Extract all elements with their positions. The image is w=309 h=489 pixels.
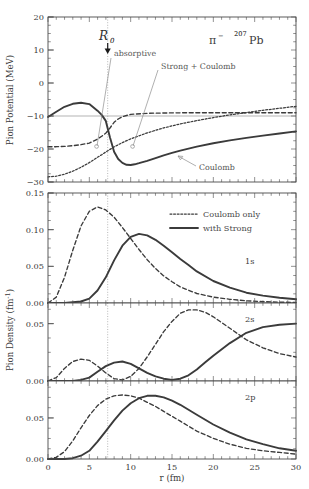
xtick-label: 5 xyxy=(87,462,92,472)
pion-symbol: π xyxy=(209,34,216,47)
xtick-label: 30 xyxy=(291,462,301,472)
target-element: Pb xyxy=(249,34,263,47)
density2p-plot-bg xyxy=(48,381,296,459)
r0-label: R xyxy=(98,29,108,43)
ytick-label: 0.05 xyxy=(26,261,44,271)
potential-yaxis-title: Pion Potential (MeV) xyxy=(5,55,15,145)
legend-label-with-strong: with Strong xyxy=(203,223,252,233)
ytick-label: 0.00 xyxy=(26,376,44,386)
xtick-label: 10 xyxy=(125,462,135,472)
xtick-label: 0 xyxy=(45,462,50,472)
panel-density-2s: 2s 0.000.05 xyxy=(26,303,296,386)
ytick-label: 0 xyxy=(39,78,44,88)
ytick-label: 0.05 xyxy=(26,413,44,423)
ytick-label: 0.15 xyxy=(26,188,44,198)
xtick-label: 25 xyxy=(249,462,259,472)
xtick-label: 20 xyxy=(208,462,218,472)
density-yaxis-title: Pion Density (fm-1) xyxy=(4,289,15,371)
ytick-label: −20 xyxy=(27,144,44,154)
figure-svg: absorptive Strong + Coulomb Coulomb R 0 … xyxy=(0,0,309,489)
state-label-1s: 1s xyxy=(245,256,254,266)
density-yaxis-title-text: Pion Density (fm xyxy=(5,299,15,371)
ytick-label: 20 xyxy=(34,12,44,22)
xaxis-tick-labels: 051015202530 xyxy=(45,462,301,472)
figure-root: absorptive Strong + Coulomb Coulomb R 0 … xyxy=(0,0,309,489)
annotation-coulomb-label: Coulomb xyxy=(199,163,235,172)
state-label-2s: 2s xyxy=(245,314,254,324)
pion-charge-superscript: − xyxy=(218,32,224,40)
ytick-label: 0.05 xyxy=(26,319,44,329)
ytick-label: 0.10 xyxy=(26,225,44,235)
ytick-label: −30 xyxy=(27,177,44,187)
legend-label-coulomb-only: Coulomb only xyxy=(203,209,260,219)
density1s-ytick-labels: 0.000.050.100.15 xyxy=(26,188,44,308)
potential-ytick-labels: −30−20−1001020 xyxy=(27,12,44,187)
panel-density-1s: Coulomb only with Strong 1s 0.000.050.10… xyxy=(26,188,296,308)
panel-potential: absorptive Strong + Coulomb Coulomb R 0 … xyxy=(5,12,296,187)
ytick-label: 0.00 xyxy=(26,454,44,464)
annotation-absorptive-label: absorptive xyxy=(114,49,157,58)
panel-density-2p: 2p 0.000.05 051015202530 r (fm) xyxy=(26,381,301,483)
xaxis-title: r (fm) xyxy=(160,473,185,483)
r0-subscript: 0 xyxy=(110,37,115,45)
state-label-2p: 2p xyxy=(245,392,255,402)
density2s-plot-bg xyxy=(48,303,296,381)
target-mass-superscript: 207 xyxy=(234,30,247,38)
density2p-ytick-labels: 0.000.05 xyxy=(26,413,44,464)
xtick-label: 15 xyxy=(167,462,177,472)
ytick-label: 0.00 xyxy=(26,298,44,308)
ytick-label: 10 xyxy=(34,45,44,55)
ytick-label: −10 xyxy=(27,111,44,121)
annotation-strong-coulomb-label: Strong + Coulomb xyxy=(161,62,236,71)
density2s-ytick-labels: 0.000.05 xyxy=(26,319,44,386)
